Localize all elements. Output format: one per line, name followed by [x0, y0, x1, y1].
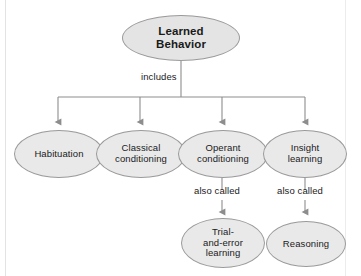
edge-label-also-called-insight: also called	[277, 185, 323, 196]
node-classical-conditioning[interactable]: Classical conditioning	[96, 130, 186, 178]
diagram-canvas: Learned Behavior includes Habituation Cl…	[0, 0, 361, 276]
node-label: Habituation	[30, 149, 87, 160]
node-reasoning[interactable]: Reasoning	[266, 221, 346, 267]
node-habituation[interactable]: Habituation	[14, 130, 104, 178]
node-operant-conditioning[interactable]: Operant conditioning	[178, 130, 268, 178]
node-insight-learning[interactable]: Insight learning	[263, 130, 347, 178]
node-label: Learned Behavior	[152, 25, 210, 51]
edge-label-also-called-operant: also called	[194, 185, 240, 196]
edge-label-includes: includes	[141, 71, 177, 82]
node-label: Classical conditioning	[111, 143, 171, 164]
node-label: Insight learning	[284, 143, 327, 164]
node-label: Operant conditioning	[193, 143, 253, 164]
node-learned-behavior[interactable]: Learned Behavior	[122, 15, 240, 61]
node-trial-and-error-learning[interactable]: Trial- and-error learning	[181, 218, 265, 268]
node-label: Reasoning	[279, 239, 333, 250]
node-label: Trial- and-error learning	[199, 227, 247, 259]
